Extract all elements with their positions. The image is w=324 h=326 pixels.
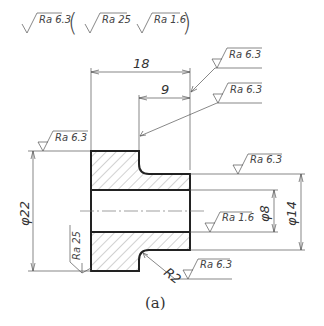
roughness-outer-left: Ra 25 <box>70 225 91 273</box>
general-roughness-header: Ra 6.3 ( Ra 25 Ra 1.6 ) <box>22 9 191 37</box>
roughness-left-face: Ra 6.3 <box>28 131 91 151</box>
svg-text:Ra 25: Ra 25 <box>71 231 82 260</box>
roughness-bore: Ra 1.6 <box>205 212 254 232</box>
svg-text:Ra 6.3: Ra 6.3 <box>229 49 261 60</box>
dimension-9: 9 <box>139 82 190 150</box>
close-paren: ) <box>182 9 191 37</box>
svg-text:Ra 6.3: Ra 6.3 <box>230 84 262 95</box>
svg-text:φ14: φ14 <box>284 201 299 226</box>
svg-text:Ra 6.3: Ra 6.3 <box>55 132 87 143</box>
figure-caption: (a) <box>145 294 166 312</box>
roughness-label-25: Ra 25 <box>102 14 131 25</box>
part-section <box>80 151 205 271</box>
dimension-9-label: 9 <box>161 82 169 97</box>
technical-drawing: Ra 6.3 ( Ra 25 Ra 1.6 ) 18 9 Ra 6.3 <box>0 0 324 326</box>
svg-text:φ22: φ22 <box>17 201 32 226</box>
svg-text:Ra 6.3: Ra 6.3 <box>250 154 282 165</box>
dimension-phi8: φ8 <box>257 190 276 232</box>
roughness-shoulder: Ra 6.3 <box>233 154 282 174</box>
fillet-callout: R2 Ra 6.3 <box>143 253 232 287</box>
dimension-phi14: φ14 <box>284 174 303 250</box>
svg-text:Ra 1.6: Ra 1.6 <box>222 212 254 223</box>
svg-text:Ra 6.3: Ra 6.3 <box>200 259 232 270</box>
svg-text:φ8: φ8 <box>257 205 272 222</box>
open-paren: ( <box>68 9 77 37</box>
svg-text:R2: R2 <box>161 265 184 287</box>
general-roughness-label: Ra 6.3 <box>39 14 71 25</box>
dimension-18-label: 18 <box>133 56 150 71</box>
roughness-step-face: Ra 6.3 <box>140 83 262 136</box>
